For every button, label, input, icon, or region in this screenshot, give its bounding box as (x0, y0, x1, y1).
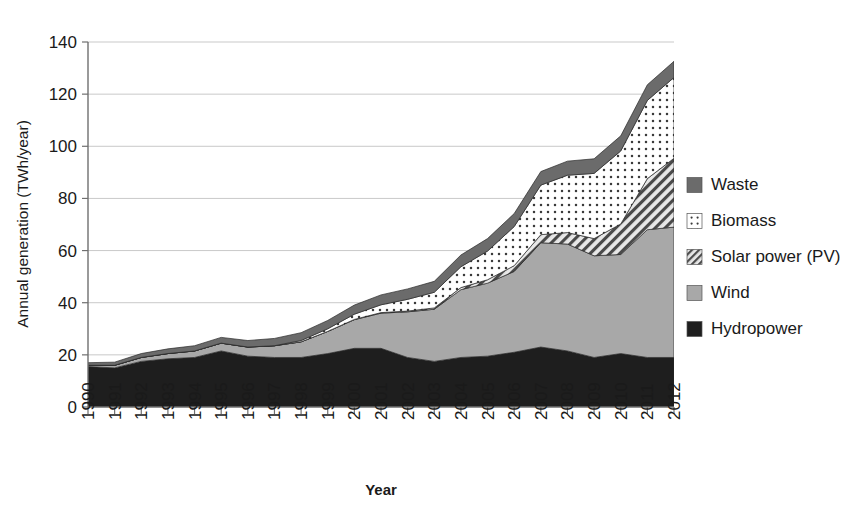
x-tick-label: 2001 (372, 382, 391, 420)
x-tick-label: 1990 (79, 382, 98, 420)
legend-swatch (687, 286, 702, 301)
legend-swatch (687, 214, 702, 229)
legend-swatch (687, 250, 702, 265)
x-tick-label: 1996 (239, 382, 258, 420)
stacked-area-chart: 020406080100120140 199019911992199319941… (0, 0, 865, 509)
y-tick-label: 120 (49, 85, 77, 104)
x-tick-label: 2009 (585, 382, 604, 420)
legend-label: Hydropower (711, 319, 803, 338)
x-tick-label: 2006 (505, 382, 524, 420)
x-tick-label: 2010 (612, 382, 631, 420)
chart-figure: 020406080100120140 199019911992199319941… (0, 0, 865, 509)
x-tick-label: 2004 (452, 382, 471, 420)
y-tick-label: 140 (49, 33, 77, 52)
x-tick-label: 1993 (159, 382, 178, 420)
x-tick-label: 2003 (425, 382, 444, 420)
x-tick-label: 2002 (399, 382, 418, 420)
y-tick-label: 100 (49, 137, 77, 156)
x-tick-label: 1995 (212, 382, 231, 420)
x-tick-label: 1998 (292, 382, 311, 420)
x-tick-label: 1997 (265, 382, 284, 420)
legend-label: Wind (711, 283, 750, 302)
legend-label: Waste (711, 175, 759, 194)
y-axis-title: Annual generation (TWh/year) (14, 120, 31, 328)
x-tick-label: 2012 (665, 382, 684, 420)
y-tick-label: 20 (58, 346, 77, 365)
x-tick-label: 2007 (532, 382, 551, 420)
x-tick-label: 1991 (106, 382, 125, 420)
x-tick-label: 2008 (558, 382, 577, 420)
x-tick-label: 2005 (479, 382, 498, 420)
legend-label: Solar power (PV) (711, 247, 840, 266)
x-tick-label: 1999 (319, 382, 338, 420)
x-tick-label: 2000 (345, 382, 364, 420)
y-tick-label: 0 (68, 398, 77, 417)
y-tick-label: 80 (58, 189, 77, 208)
legend-label: Biomass (711, 211, 776, 230)
x-tick-label: 1994 (186, 382, 205, 420)
x-tick-label: 1992 (132, 382, 151, 420)
legend-swatch (687, 322, 702, 337)
x-tick-label: 2011 (638, 383, 657, 420)
x-axis-title: Year (365, 481, 397, 498)
legend-swatch (687, 178, 702, 193)
y-tick-label: 40 (58, 294, 77, 313)
x-axis-ticks: 1990199119921993199419951996199719981999… (79, 382, 684, 420)
y-tick-label: 60 (58, 242, 77, 261)
